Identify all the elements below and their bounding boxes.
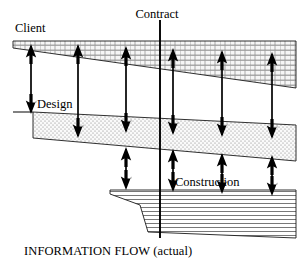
label-client: Client: [15, 21, 46, 35]
label-construction: Construction: [175, 175, 240, 189]
information-flow-diagram: Client Contract Design Construction INFO…: [0, 0, 302, 266]
label-contract: Contract: [135, 7, 179, 21]
band-client-shape: [13, 41, 296, 88]
arrowhead-up-icon: [121, 147, 131, 167]
arrow-column: [26, 44, 36, 114]
arrowhead-up-icon: [168, 149, 178, 169]
band-construction: [110, 190, 296, 238]
band-design-shape: [33, 112, 296, 161]
band-client: [13, 41, 296, 88]
arrowhead-down-icon: [121, 170, 131, 190]
figure-caption: INFORMATION FLOW (actual): [24, 244, 192, 258]
arrowhead-down-icon: [26, 94, 36, 114]
band-construction-shape: [110, 190, 296, 238]
label-design: Design: [37, 97, 73, 111]
arrowhead-up-icon: [217, 153, 227, 173]
diagram-canvas: Client Contract Design Construction INFO…: [0, 0, 302, 266]
band-design: [13, 112, 296, 161]
band-group: [13, 41, 296, 238]
